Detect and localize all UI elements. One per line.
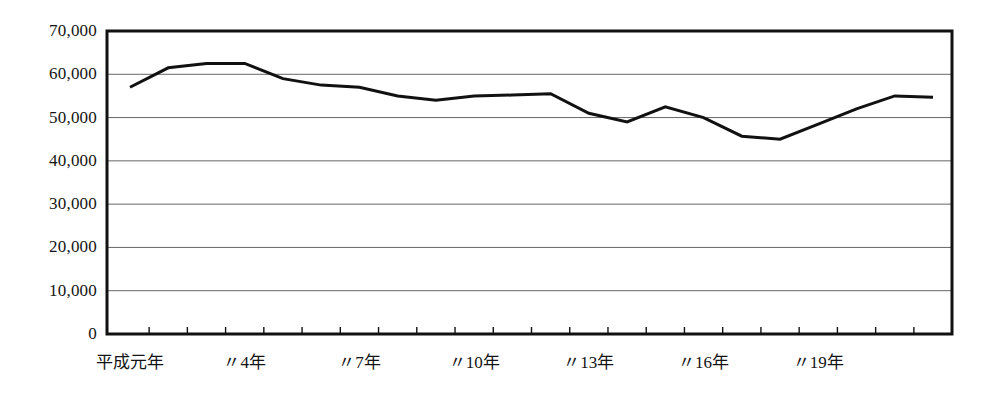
y-axis-tick-label: 40,000	[49, 152, 97, 169]
data-series-line	[130, 63, 933, 139]
x-axis-ticks	[149, 327, 914, 333]
y-axis-tick-label: 20,000	[49, 238, 97, 255]
y-axis-tick-label: 60,000	[49, 65, 97, 82]
y-axis-tick-label: 0	[88, 325, 97, 342]
y-axis-tick-label: 10,000	[49, 282, 97, 299]
y-axis-tick-label: 70,000	[49, 22, 97, 39]
chart-plot-area	[0, 0, 985, 402]
x-axis-tick-label: 〃19年	[738, 354, 898, 371]
y-axis-tick-label: 30,000	[49, 195, 97, 212]
y-axis-tick-label: 50,000	[49, 109, 97, 126]
line-chart: 70,00060,00050,00040,00030,00020,00010,0…	[0, 0, 985, 402]
gridlines	[107, 74, 952, 290]
plot-frame-border	[107, 31, 952, 334]
